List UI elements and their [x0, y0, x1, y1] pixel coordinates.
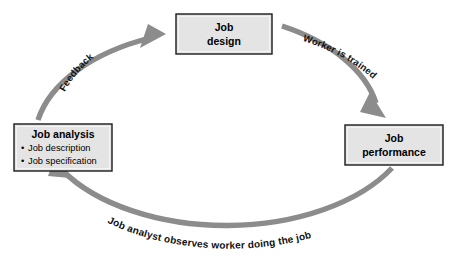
box-job-design[interactable]: Job design [176, 14, 272, 54]
bullet-label: Job description [28, 143, 91, 153]
box-job-design-title: Job [215, 21, 234, 33]
arrow-label-worker-is-trained: Worker is trained [302, 32, 379, 81]
arrow-label-feedback: Feedback [57, 51, 96, 94]
arrow-feedback-arc [38, 38, 150, 120]
box-job-analysis[interactable]: Job analysis • Job description • Job spe… [14, 124, 112, 171]
bullet-label: Job specification [28, 156, 97, 166]
box-job-design-subtitle: design [207, 35, 241, 47]
box-job-performance[interactable]: Job performance [345, 125, 443, 165]
bullet-glyph: • [21, 143, 24, 153]
box-job-analysis-bullet-1: • Job specification [21, 156, 97, 166]
box-job-performance-subtitle: performance [362, 146, 426, 158]
box-job-performance-title: Job [385, 132, 404, 144]
box-job-analysis-bullet-0: • Job description [21, 143, 91, 153]
box-job-analysis-title: Job analysis [31, 128, 94, 140]
arrow-feedback-head [140, 24, 166, 48]
bullet-glyph: • [21, 156, 24, 166]
cycle-diagram: Feedback Worker is trained Job analyst o… [0, 0, 456, 270]
